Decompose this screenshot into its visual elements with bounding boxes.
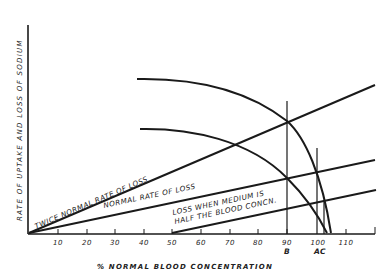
lower-uptake-curve <box>140 129 327 233</box>
marker-ac-label: AC <box>313 247 326 256</box>
y-axis-title: RATE OF UPTAKE AND LOSS OF SODIUM <box>16 39 24 221</box>
x-ticks <box>58 227 375 234</box>
tick-70: 70 <box>225 239 235 247</box>
tick-100: 100 <box>311 239 326 247</box>
tick-20: 20 <box>82 239 92 247</box>
tick-50: 50 <box>167 239 177 247</box>
tick-60: 60 <box>196 239 206 247</box>
x-axis-title: % NORMAL BLOOD CONCENTRATION <box>97 263 273 271</box>
x-tick-labels: 10 20 30 40 50 60 70 80 90 100 110 <box>53 239 353 247</box>
tick-110: 110 <box>339 239 354 247</box>
tick-80: 80 <box>253 239 263 247</box>
chart: 10 20 30 40 50 60 70 80 90 100 110 B AC … <box>0 0 391 274</box>
tick-30: 30 <box>110 239 120 247</box>
tick-40: 40 <box>139 239 149 247</box>
marker-b-label: B <box>284 247 290 256</box>
tick-90: 90 <box>282 239 292 247</box>
tick-10: 10 <box>53 239 63 247</box>
